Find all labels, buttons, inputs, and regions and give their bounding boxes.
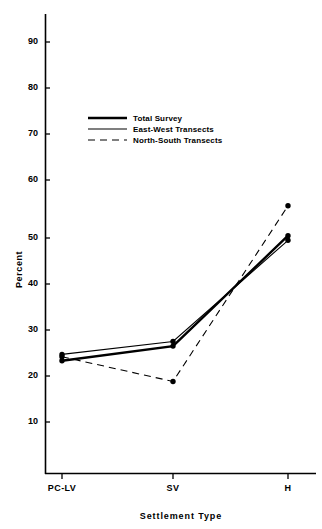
point-total-survey-h — [285, 233, 290, 238]
legend-line-samples — [88, 118, 127, 140]
point-north-south-pc-lv — [59, 354, 64, 359]
legend-label-east-west: East-West Transects — [133, 125, 214, 134]
y-tick-label-80: 80 — [12, 82, 38, 92]
point-north-south-sv — [170, 379, 175, 384]
series-line-east-west — [62, 240, 288, 354]
chart-figure: 90 80 70 60 50 40 30 20 10 Percent PC-LV… — [0, 0, 322, 529]
y-tick-label-50: 50 — [12, 232, 38, 242]
point-east-west-h — [285, 238, 290, 243]
y-tick-label-70: 70 — [12, 128, 38, 138]
x-tick-label-h: H — [258, 483, 318, 493]
y-tick-label-30: 30 — [12, 324, 38, 334]
x-axis-title: Settlement Type — [111, 511, 251, 521]
point-total-survey-sv — [170, 343, 175, 348]
point-north-south-h — [285, 203, 290, 208]
point-east-west-sv — [170, 339, 175, 344]
x-tick-label-sv: SV — [143, 483, 203, 493]
y-axis-title: Percent — [14, 251, 24, 288]
y-tick-label-90: 90 — [12, 36, 38, 46]
y-tick-label-20: 20 — [12, 370, 38, 380]
x-tick-label-pc-lv: PC-LV — [32, 483, 92, 493]
line-chart-plot — [0, 0, 322, 529]
y-tick-label-10: 10 — [12, 416, 38, 426]
y-tick-label-60: 60 — [12, 174, 38, 184]
legend-label-north-south: North-South Transects — [133, 136, 222, 145]
legend-label-total-survey: Total Survey — [133, 114, 182, 123]
